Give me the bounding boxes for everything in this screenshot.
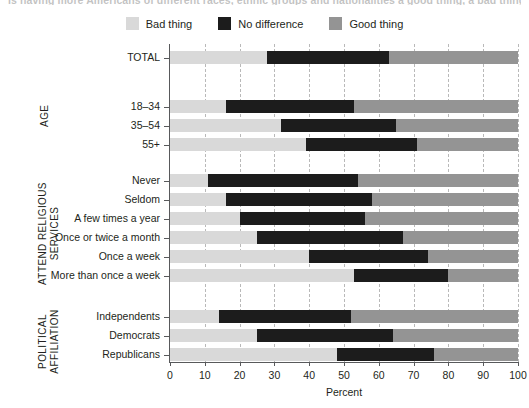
legend-swatch-no-difference bbox=[218, 17, 231, 30]
bar-segment-age-35-54-good bbox=[396, 119, 518, 132]
y-label-attend-more-than-week: More than once a week bbox=[0, 270, 160, 281]
bar-segment-attend-seldom-same bbox=[226, 193, 372, 206]
bar-age-55-plus bbox=[170, 138, 518, 151]
legend-swatch-good-thing bbox=[329, 17, 342, 30]
y-tick-attend-few-times-year bbox=[164, 219, 169, 220]
x-label-100: 100 bbox=[498, 369, 529, 381]
bar-segment-attend-once-twice-month-bad bbox=[170, 231, 257, 244]
group-label-age: AGE bbox=[39, 81, 51, 151]
bar-segment-attend-more-than-week-bad bbox=[170, 269, 354, 282]
bar-segment-total-bad bbox=[170, 51, 267, 64]
bar-segment-attend-seldom-bad bbox=[170, 193, 226, 206]
legend-item-no-difference: No difference bbox=[218, 17, 303, 30]
bar-segment-age-35-54-bad bbox=[170, 119, 281, 132]
bar-total bbox=[170, 51, 518, 64]
bar-segment-attend-few-times-year-bad bbox=[170, 212, 240, 225]
legend-swatch-bad-thing bbox=[126, 17, 139, 30]
x-tick-100 bbox=[518, 362, 519, 366]
gridline-100 bbox=[518, 44, 519, 362]
y-label-independents: Independents bbox=[0, 311, 160, 322]
legend-item-bad-thing: Bad thing bbox=[126, 17, 192, 30]
legend-label-good-thing: Good thing bbox=[349, 18, 403, 30]
bar-segment-age-18-34-good bbox=[354, 100, 518, 113]
x-tick-90 bbox=[483, 362, 484, 366]
bar-segment-age-35-54-same bbox=[281, 119, 396, 132]
bar-segment-republicans-good bbox=[434, 348, 518, 361]
y-tick-age-55-plus bbox=[164, 145, 169, 146]
bar-segment-age-55-plus-bad bbox=[170, 138, 306, 151]
y-tick-republicans bbox=[164, 355, 169, 356]
y-tick-attend-once-week bbox=[164, 257, 169, 258]
y-label-attend-once-twice-month: Once or twice a month bbox=[0, 232, 160, 243]
bar-segment-attend-never-bad bbox=[170, 174, 208, 187]
y-label-age-35-54: 35–54 bbox=[0, 120, 160, 131]
y-label-republicans: Republicans bbox=[0, 349, 160, 360]
bar-segment-attend-once-week-same bbox=[309, 250, 427, 263]
y-label-attend-never: Never bbox=[0, 175, 160, 186]
bar-attend-more-than-week bbox=[170, 269, 518, 282]
bar-segment-democrats-same bbox=[257, 329, 393, 342]
x-tick-30 bbox=[274, 362, 275, 366]
bar-segment-age-55-plus-good bbox=[417, 138, 518, 151]
bar-segment-age-18-34-same bbox=[226, 100, 355, 113]
x-tick-20 bbox=[240, 362, 241, 366]
legend-item-good-thing: Good thing bbox=[329, 17, 403, 30]
bar-republicans bbox=[170, 348, 518, 361]
x-tick-10 bbox=[205, 362, 206, 366]
chart-root: Is having more Americans of different ra… bbox=[0, 0, 529, 408]
bar-segment-republicans-bad bbox=[170, 348, 337, 361]
group-label-attend-religious-services: ATTEND RELIGIOUS SERVICES bbox=[37, 169, 60, 299]
bar-segment-democrats-good bbox=[393, 329, 518, 342]
x-tick-60 bbox=[379, 362, 380, 366]
x-tick-40 bbox=[309, 362, 310, 366]
x-tick-0 bbox=[170, 362, 171, 366]
bar-segment-attend-once-twice-month-good bbox=[403, 231, 518, 244]
bar-segment-age-55-plus-same bbox=[306, 138, 417, 151]
group-label-political-affiliation: POLITICAL AFFILIATION bbox=[37, 302, 60, 382]
y-tick-attend-more-than-week bbox=[164, 276, 169, 277]
x-axis-title: Percent bbox=[170, 386, 518, 398]
y-label-democrats: Democrats bbox=[0, 330, 160, 341]
bar-segment-republicans-same bbox=[337, 348, 434, 361]
y-label-attend-few-times-year: A few times a year bbox=[0, 213, 160, 224]
bar-segment-attend-once-twice-month-same bbox=[257, 231, 403, 244]
chart-legend: Bad thing No difference Good thing bbox=[0, 17, 529, 30]
y-tick-attend-seldom bbox=[164, 200, 169, 201]
y-tick-democrats bbox=[164, 336, 169, 337]
bar-age-18-34 bbox=[170, 100, 518, 113]
y-label-age-18-34: 18–34 bbox=[0, 101, 160, 112]
x-tick-70 bbox=[414, 362, 415, 366]
bar-segment-democrats-bad bbox=[170, 329, 257, 342]
bar-democrats bbox=[170, 329, 518, 342]
y-tick-age-18-34 bbox=[164, 107, 169, 108]
bar-segment-attend-once-week-good bbox=[428, 250, 518, 263]
bar-segment-attend-never-good bbox=[358, 174, 518, 187]
bar-attend-once-twice-month bbox=[170, 231, 518, 244]
bar-attend-few-times-year bbox=[170, 212, 518, 225]
chart-title-sliver: Is having more Americans of different ra… bbox=[8, 0, 521, 5]
bar-segment-independents-good bbox=[351, 310, 518, 323]
y-label-attend-once-week: Once a week bbox=[0, 251, 160, 262]
bar-segment-total-good bbox=[389, 51, 518, 64]
y-label-age-55-plus: 55+ bbox=[0, 139, 160, 150]
bar-segment-attend-few-times-year-same bbox=[240, 212, 365, 225]
y-tick-attend-never bbox=[164, 181, 169, 182]
y-tick-attend-once-twice-month bbox=[164, 238, 169, 239]
bar-segment-independents-bad bbox=[170, 310, 219, 323]
bar-attend-once-week bbox=[170, 250, 518, 263]
bar-segment-attend-never-same bbox=[208, 174, 358, 187]
bar-segment-attend-more-than-week-good bbox=[448, 269, 518, 282]
legend-label-bad-thing: Bad thing bbox=[146, 18, 192, 30]
bar-age-35-54 bbox=[170, 119, 518, 132]
bar-attend-never bbox=[170, 174, 518, 187]
bar-independents bbox=[170, 310, 518, 323]
bar-attend-seldom bbox=[170, 193, 518, 206]
y-label-attend-seldom: Seldom bbox=[0, 194, 160, 205]
y-tick-total bbox=[164, 58, 169, 59]
bar-segment-independents-same bbox=[219, 310, 351, 323]
bar-segment-attend-few-times-year-good bbox=[365, 212, 518, 225]
x-tick-80 bbox=[448, 362, 449, 366]
bar-segment-total-same bbox=[267, 51, 389, 64]
bar-segment-attend-once-week-bad bbox=[170, 250, 309, 263]
x-tick-50 bbox=[344, 362, 345, 366]
